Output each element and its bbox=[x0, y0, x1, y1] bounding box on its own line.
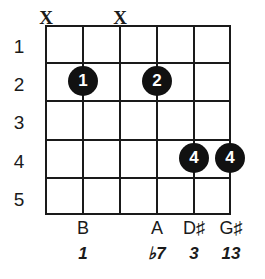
fret-line-4 bbox=[45, 177, 231, 179]
chord-diagram: 1 2 3 4 5 X X 1 2 4 4 B A D♯ G♯ 1 ♭7 3 1… bbox=[0, 0, 265, 279]
fret-line-2 bbox=[45, 100, 231, 102]
fret-line-1 bbox=[45, 62, 231, 64]
string-line-4 bbox=[156, 25, 158, 215]
mute-mark-string-3: X bbox=[111, 9, 129, 27]
fret-line-5 bbox=[45, 213, 231, 215]
nut-line bbox=[45, 25, 231, 27]
fret-number-3: 3 bbox=[0, 113, 38, 132]
interval-label-string-2: 1 bbox=[60, 245, 106, 262]
note-label-string-6: G♯ bbox=[208, 219, 254, 237]
string-line-1 bbox=[45, 25, 47, 215]
finger-dot-string-5-fret-4: 4 bbox=[179, 143, 209, 173]
string-line-6 bbox=[229, 25, 231, 215]
interval-label-string-6: 13 bbox=[208, 245, 254, 262]
fret-number-5: 5 bbox=[0, 190, 38, 209]
finger-dot-string-4-fret-2: 2 bbox=[142, 66, 172, 96]
string-line-2 bbox=[82, 25, 84, 215]
finger-dot-string-6-fret-4: 4 bbox=[215, 143, 245, 173]
fret-number-1: 1 bbox=[0, 37, 38, 56]
fret-number-4: 4 bbox=[0, 152, 38, 171]
fret-number-2: 2 bbox=[0, 75, 38, 94]
string-line-5 bbox=[193, 25, 195, 215]
string-line-3 bbox=[119, 25, 121, 215]
mute-mark-string-1: X bbox=[37, 9, 55, 27]
fretboard-grid bbox=[45, 25, 231, 215]
note-label-string-2: B bbox=[60, 219, 106, 237]
finger-dot-string-2-fret-2: 1 bbox=[68, 66, 98, 96]
fret-line-3 bbox=[45, 139, 231, 141]
